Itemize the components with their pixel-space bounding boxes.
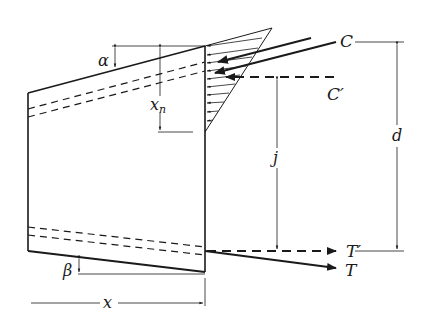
label-j: j xyxy=(270,148,278,167)
label-xn: xn xyxy=(150,95,166,116)
C-arrow-1 xyxy=(218,38,311,62)
beam-top-edge xyxy=(28,46,205,93)
label-xn-main: x xyxy=(150,95,159,114)
x-dimension xyxy=(31,278,205,306)
d-dimension xyxy=(355,42,404,251)
bottom-rebar-line-2 xyxy=(28,235,205,255)
stress-arrows xyxy=(207,38,262,121)
label-xn-sub: n xyxy=(159,103,166,116)
label-beta: β xyxy=(62,261,72,280)
bottom-rebar-line-1 xyxy=(28,227,205,247)
compression-stress-block xyxy=(205,28,272,132)
label-alpha: α xyxy=(98,51,109,70)
label-d: d xyxy=(392,126,402,145)
label-C-prime: C′ xyxy=(327,84,344,104)
top-rebar-line-2 xyxy=(28,71,205,117)
label-x: x xyxy=(103,293,112,312)
beam-force-diagram: α xn β x j d C C′ T′ T xyxy=(0,0,425,324)
beam-bottom-edge xyxy=(28,251,205,272)
label-C: C xyxy=(340,31,353,51)
compression-force-C xyxy=(215,38,336,73)
beta-dimension xyxy=(78,259,205,274)
tension-force-T xyxy=(205,251,336,268)
xn-dimension xyxy=(158,48,193,132)
label-T-prime: T′ xyxy=(346,241,361,261)
reinforcement-lines xyxy=(28,62,205,255)
label-T: T xyxy=(345,260,358,280)
